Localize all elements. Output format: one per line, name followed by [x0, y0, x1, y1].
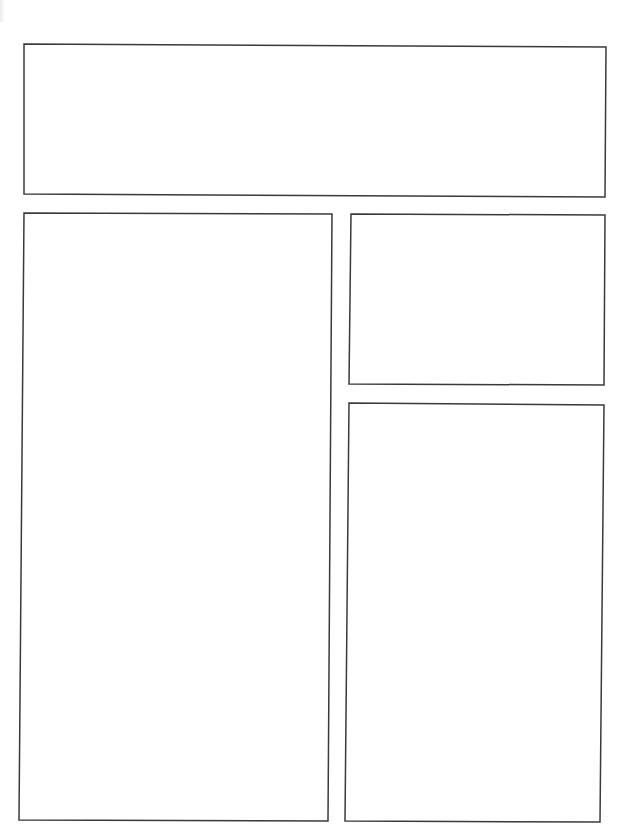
panel-2: [21, 214, 330, 821]
scan-edge-shadow: [0, 0, 5, 22]
panel-3: [350, 215, 605, 385]
panel-1: [24, 45, 606, 195]
panel-4: [347, 404, 603, 822]
comic-page: [0, 0, 634, 840]
